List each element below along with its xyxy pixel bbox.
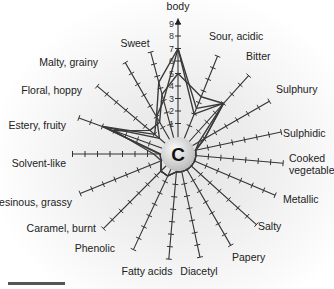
tick (192, 232, 198, 233)
tick (181, 183, 187, 184)
tick (194, 244, 200, 245)
arrow-head-icon (175, 18, 181, 25)
tick (168, 234, 174, 235)
tick (208, 154, 209, 160)
axis-label: Cooked (289, 152, 325, 164)
tick (189, 220, 195, 221)
radar-chart: bodySour, acidicBitterSulphurySulphidicC… (0, 0, 334, 289)
axis-label: Diacetyl (180, 265, 217, 277)
tick (167, 246, 173, 247)
tick (283, 160, 284, 166)
tick (245, 157, 246, 163)
tick (221, 155, 222, 161)
axis-label: Caramel, burnt (27, 222, 97, 234)
tick (268, 132, 269, 138)
axis-label: Sulphidic (283, 127, 326, 139)
axis-label: Floral, hoppy (21, 84, 82, 96)
axis-label: Resinous, grassy (0, 196, 73, 208)
axis-label: Sour, acidic (209, 30, 263, 42)
tick-label: 8 (169, 31, 174, 41)
tick (187, 208, 193, 209)
tick (166, 259, 172, 260)
radar-svg: bodySour, acidicBitterSulphurySulphidicC… (0, 0, 334, 289)
center-label: C (171, 144, 185, 165)
axis-label: body (167, 0, 191, 12)
axis-label: Bitter (246, 50, 271, 62)
axis-label: Estery, fruity (8, 119, 66, 131)
axis-label: Papery (232, 251, 266, 263)
tick (258, 158, 259, 164)
axis-label: Salty (258, 220, 282, 232)
tick (232, 140, 233, 146)
tick-label: 1 (169, 119, 174, 129)
tick (207, 145, 208, 151)
tick (270, 159, 271, 165)
tick-label: 3 (169, 94, 174, 104)
tick (219, 142, 220, 148)
tick (281, 129, 282, 135)
tick-label: 7 (169, 44, 174, 54)
axis-label: Fatty acids (122, 265, 173, 277)
tick (256, 134, 257, 140)
axis-label: Phenolic (75, 242, 115, 254)
tick (197, 257, 203, 258)
axis-label: Solvent-like (12, 157, 66, 169)
axis-label: Malty, grainy (39, 56, 98, 68)
tick (172, 184, 178, 185)
axis-label: Sulphury (276, 83, 318, 95)
tick (171, 197, 177, 198)
axis-label: Sweet (120, 37, 149, 49)
tick (244, 137, 245, 143)
tick (233, 156, 234, 162)
axis-label: Metallic (283, 193, 319, 205)
footer-bar (8, 282, 65, 285)
tick (169, 221, 175, 222)
tick (184, 195, 190, 196)
tick-label: 2 (169, 106, 174, 116)
tick-label: 9 (169, 19, 174, 29)
tick (170, 209, 176, 210)
axis-label: vegetable (289, 164, 334, 176)
